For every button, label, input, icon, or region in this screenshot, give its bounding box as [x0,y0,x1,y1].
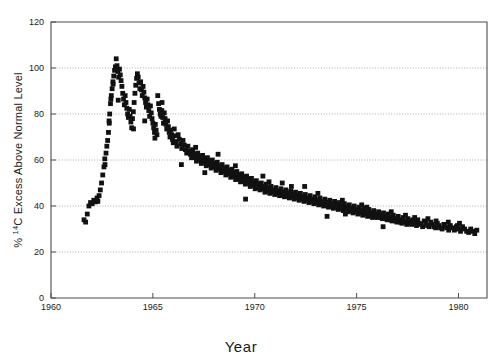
x-tick-label: 1970 [245,302,265,312]
data-point [403,213,408,218]
data-point [124,100,129,105]
data-point [233,163,238,168]
x-tick-label: 1965 [143,302,163,312]
data-point [176,132,181,137]
y-tick-label: 100 [29,63,44,73]
data-points [82,56,480,236]
y-tick-label: 80 [34,109,44,119]
data-point [316,191,321,196]
data-point [111,82,116,87]
data-point [123,93,128,98]
data-point [381,224,386,229]
data-point [102,156,107,161]
data-point [116,98,121,103]
data-point [99,181,104,186]
data-point [474,228,479,233]
y-axis-title: % 14C Excess Above Normal Level [11,72,24,247]
data-point [149,110,154,115]
data-point [154,128,159,133]
data-point [186,144,191,149]
data-point [340,198,345,203]
data-point [280,181,285,186]
data-point [97,193,102,198]
data-point [165,119,170,124]
data-point [446,220,451,225]
data-point [260,174,265,179]
data-point [160,100,165,105]
data-point [136,75,141,80]
data-point [117,67,122,72]
data-point [103,162,108,167]
data-point [434,219,439,224]
data-point [181,138,186,143]
data-point [455,223,460,228]
x-tick-label: 1975 [347,302,367,312]
data-point [132,100,137,105]
y-tick-label: 0 [39,293,44,303]
data-point [106,130,111,135]
data-point [109,93,114,98]
data-point [108,101,113,106]
x-tick-label: 1960 [41,302,61,312]
data-point [130,116,135,121]
data-point [131,127,136,132]
data-point [302,184,307,189]
data-point [120,84,125,89]
data-point [118,73,123,78]
data-point [364,205,369,210]
x-axis-title: Year [225,338,258,355]
data-point [114,56,119,61]
data-point [110,86,115,91]
data-point [153,136,158,141]
x-axis-tick-labels: 19601965197019751980 [41,302,469,312]
data-point [267,179,272,184]
data-point [142,90,147,95]
data-point [155,93,160,98]
data-point [104,144,109,149]
y-tick-label: 20 [34,247,44,257]
y-tick-label: 60 [34,155,44,165]
data-point [359,202,364,207]
data-point [389,209,394,214]
data-point [145,97,150,102]
data-point [243,197,248,202]
chart-figure: 19601965197019751980 020406080100120 Yea… [0,0,499,361]
data-point [458,229,463,234]
data-point [172,127,177,132]
data-point [141,84,146,89]
data-point [325,214,330,219]
data-point [98,188,103,193]
y-axis-title-superscript: 14 [11,226,20,235]
data-point [148,104,153,109]
y-axis-ticks [51,22,56,298]
data-point [202,170,207,175]
y-tick-label: 120 [29,17,44,27]
data-point [105,138,110,143]
x-axis-ticks [51,293,458,298]
data-point [343,212,348,217]
data-point [162,110,167,115]
data-point [83,220,88,225]
data-point [131,109,136,114]
data-point [216,152,221,157]
data-point [193,145,198,150]
data-point [107,112,112,117]
y-axis-title-rest: C Excess Above Normal Level [12,72,24,225]
data-point [85,212,90,217]
data-point [100,173,105,178]
data-point [104,151,109,156]
scatter-plot: 19601965197019751980 020406080100120 Yea… [0,0,499,361]
data-point [289,184,294,189]
data-point [95,199,100,204]
data-point [138,79,143,84]
data-point [153,122,158,127]
data-point [111,74,116,79]
y-tick-label: 40 [34,201,44,211]
data-point [133,91,138,96]
data-point [119,78,124,83]
y-axis-title-prefix: % [12,234,24,247]
y-axis-tick-labels: 020406080100120 [29,17,44,303]
data-point [107,119,112,124]
x-tick-label: 1980 [448,302,468,312]
data-point [142,119,147,124]
